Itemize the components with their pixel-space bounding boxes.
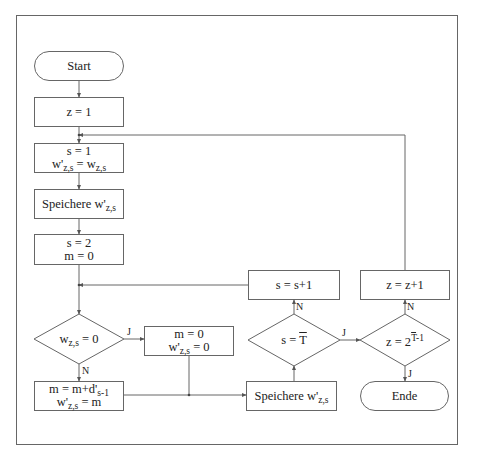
start-terminal [35, 52, 124, 81]
edge-incz-loop [79, 135, 405, 270]
init-m-box [35, 235, 124, 265]
init-z-box [35, 98, 124, 127]
store1-box [35, 190, 124, 219]
decision-w-no-label: N [82, 366, 89, 376]
inc-z-box [361, 271, 450, 300]
store2-box [247, 382, 337, 411]
decision-w-yes-label: J [127, 327, 131, 337]
decision-s-no-label: N [296, 302, 303, 312]
decision-s-yes-label: J [342, 328, 346, 338]
decision-z-diamond [360, 314, 450, 366]
diagram-frame [17, 16, 458, 445]
accum-m-box [35, 382, 124, 411]
decision-z-no-label: N [407, 302, 414, 312]
decision-w-diamond [34, 314, 124, 364]
flowchart-canvas [0, 0, 479, 460]
inc-s-box [249, 271, 340, 300]
decision-z-yes-label: J [408, 369, 412, 379]
init-s-box [35, 144, 124, 173]
reset-m-box [145, 327, 234, 356]
end-terminal [361, 382, 449, 411]
decision-s-diamond [248, 314, 340, 366]
